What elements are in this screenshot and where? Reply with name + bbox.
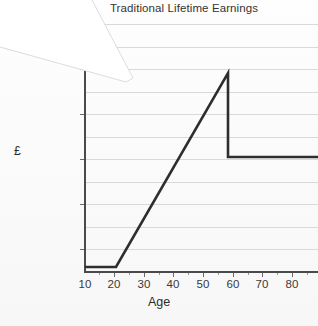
chart-screenshot: 10 20 30 40 50 60 70 80 Traditional Life… <box>0 0 318 326</box>
y-axis-label: £ <box>14 144 21 158</box>
x-axis-label: Age <box>0 295 318 309</box>
earnings-line <box>85 73 318 267</box>
chart-title: Traditional Lifetime Earnings <box>84 2 284 14</box>
data-series-layer <box>0 0 318 326</box>
